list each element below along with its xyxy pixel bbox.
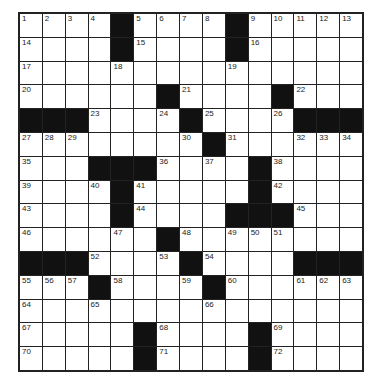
- grid-cell[interactable]: [272, 62, 294, 85]
- grid-cell[interactable]: [111, 109, 133, 132]
- grid-cell[interactable]: [66, 204, 88, 227]
- grid-cell[interactable]: 61: [294, 276, 316, 299]
- grid-cell[interactable]: [89, 133, 111, 156]
- grid-cell[interactable]: [180, 38, 202, 61]
- grid-cell[interactable]: [180, 204, 202, 227]
- grid-cell[interactable]: [89, 38, 111, 61]
- grid-cell[interactable]: [111, 347, 133, 370]
- grid-cell[interactable]: [157, 133, 179, 156]
- grid-cell[interactable]: 18: [111, 62, 133, 85]
- grid-cell[interactable]: 44: [134, 204, 156, 227]
- grid-cell[interactable]: 31: [226, 133, 248, 156]
- grid-cell[interactable]: [317, 300, 339, 323]
- grid-cell[interactable]: 11: [294, 14, 316, 37]
- grid-cell[interactable]: 62: [317, 276, 339, 299]
- grid-cell[interactable]: 65: [89, 300, 111, 323]
- grid-cell[interactable]: [249, 62, 271, 85]
- grid-cell[interactable]: [180, 300, 202, 323]
- grid-cell[interactable]: 15: [134, 38, 156, 61]
- grid-cell[interactable]: [340, 300, 362, 323]
- grid-cell[interactable]: 5: [134, 14, 156, 37]
- grid-cell[interactable]: [89, 347, 111, 370]
- grid-cell[interactable]: [317, 38, 339, 61]
- grid-cell[interactable]: 41: [134, 181, 156, 204]
- grid-cell[interactable]: 21: [180, 85, 202, 108]
- grid-cell[interactable]: [294, 62, 316, 85]
- grid-cell[interactable]: [294, 300, 316, 323]
- grid-cell[interactable]: 24: [157, 109, 179, 132]
- grid-cell[interactable]: 57: [66, 276, 88, 299]
- grid-cell[interactable]: [294, 323, 316, 346]
- grid-cell[interactable]: 27: [20, 133, 42, 156]
- grid-cell[interactable]: [111, 85, 133, 108]
- grid-cell[interactable]: 1: [20, 14, 42, 37]
- grid-cell[interactable]: [203, 228, 225, 251]
- grid-cell[interactable]: 56: [43, 276, 65, 299]
- grid-cell[interactable]: 25: [203, 109, 225, 132]
- grid-cell[interactable]: 37: [203, 157, 225, 180]
- grid-cell[interactable]: [249, 133, 271, 156]
- grid-cell[interactable]: 46: [20, 228, 42, 251]
- grid-cell[interactable]: [66, 181, 88, 204]
- grid-cell[interactable]: 39: [20, 181, 42, 204]
- grid-cell[interactable]: 66: [203, 300, 225, 323]
- grid-cell[interactable]: 14: [20, 38, 42, 61]
- grid-cell[interactable]: 28: [43, 133, 65, 156]
- grid-cell[interactable]: [157, 181, 179, 204]
- grid-cell[interactable]: [249, 276, 271, 299]
- grid-cell[interactable]: [66, 157, 88, 180]
- grid-cell[interactable]: [43, 347, 65, 370]
- grid-cell[interactable]: 60: [226, 276, 248, 299]
- grid-cell[interactable]: [66, 38, 88, 61]
- grid-cell[interactable]: [226, 300, 248, 323]
- grid-cell[interactable]: [226, 181, 248, 204]
- grid-cell[interactable]: [317, 85, 339, 108]
- grid-cell[interactable]: [66, 323, 88, 346]
- grid-cell[interactable]: [340, 62, 362, 85]
- grid-cell[interactable]: [180, 62, 202, 85]
- grid-cell[interactable]: [134, 133, 156, 156]
- grid-cell[interactable]: [66, 228, 88, 251]
- grid-cell[interactable]: 49: [226, 228, 248, 251]
- grid-cell[interactable]: [134, 252, 156, 275]
- grid-cell[interactable]: [294, 181, 316, 204]
- grid-cell[interactable]: [294, 157, 316, 180]
- grid-cell[interactable]: [294, 38, 316, 61]
- grid-cell[interactable]: 53: [157, 252, 179, 275]
- grid-cell[interactable]: [249, 109, 271, 132]
- grid-cell[interactable]: [134, 85, 156, 108]
- grid-cell[interactable]: [180, 157, 202, 180]
- grid-cell[interactable]: [43, 204, 65, 227]
- grid-cell[interactable]: 54: [203, 252, 225, 275]
- grid-cell[interactable]: [226, 347, 248, 370]
- grid-cell[interactable]: [226, 252, 248, 275]
- grid-cell[interactable]: [43, 157, 65, 180]
- grid-cell[interactable]: [111, 133, 133, 156]
- grid-cell[interactable]: [66, 62, 88, 85]
- grid-cell[interactable]: [340, 323, 362, 346]
- grid-cell[interactable]: [272, 300, 294, 323]
- grid-cell[interactable]: [66, 300, 88, 323]
- grid-cell[interactable]: 30: [180, 133, 202, 156]
- grid-cell[interactable]: 20: [20, 85, 42, 108]
- grid-cell[interactable]: [111, 323, 133, 346]
- grid-cell[interactable]: 71: [157, 347, 179, 370]
- grid-cell[interactable]: [89, 62, 111, 85]
- grid-cell[interactable]: 38: [272, 157, 294, 180]
- grid-cell[interactable]: [272, 252, 294, 275]
- grid-cell[interactable]: 55: [20, 276, 42, 299]
- grid-cell[interactable]: 52: [89, 252, 111, 275]
- grid-cell[interactable]: [66, 347, 88, 370]
- grid-cell[interactable]: [157, 38, 179, 61]
- grid-cell[interactable]: [226, 157, 248, 180]
- grid-cell[interactable]: [294, 347, 316, 370]
- grid-cell[interactable]: [134, 62, 156, 85]
- grid-cell[interactable]: [203, 347, 225, 370]
- grid-cell[interactable]: [203, 204, 225, 227]
- grid-cell[interactable]: [43, 300, 65, 323]
- grid-cell[interactable]: 3: [66, 14, 88, 37]
- grid-cell[interactable]: [340, 347, 362, 370]
- grid-cell[interactable]: [134, 276, 156, 299]
- grid-cell[interactable]: [203, 181, 225, 204]
- grid-cell[interactable]: [89, 204, 111, 227]
